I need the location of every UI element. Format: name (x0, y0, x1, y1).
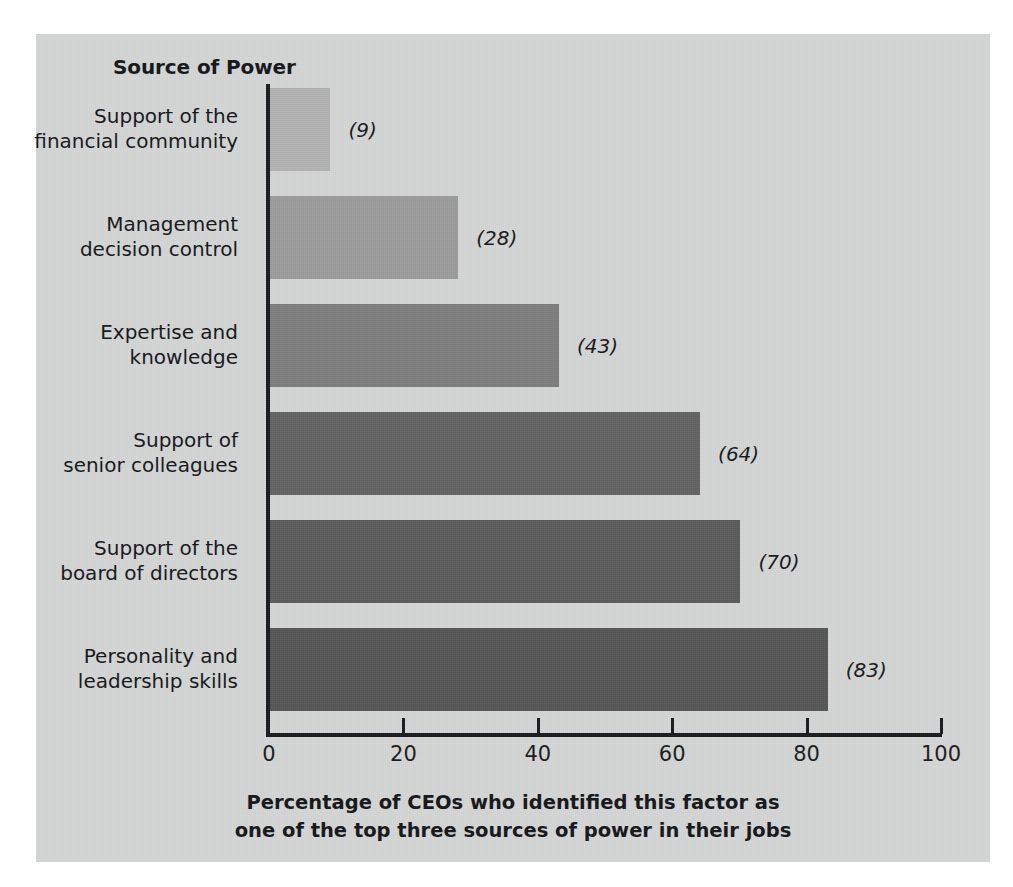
category-label-line-2: knowledge (18, 346, 238, 372)
bar-value-label: (28) (476, 226, 517, 250)
bar-value-label: (43) (577, 334, 618, 358)
chart-column-header: Source of Power (113, 55, 313, 79)
bar-row: Support of thefinancial community(9) (36, 88, 990, 171)
category-label-line-1: Management (18, 212, 238, 238)
x-axis-tick (537, 718, 540, 734)
bar[interactable] (270, 196, 458, 279)
x-axis-title-line-2: one of the top three sources of power in… (36, 817, 990, 845)
x-axis-tick (806, 718, 809, 734)
bar-row: Personality andleadership skills(83) (36, 628, 990, 711)
category-label-line-1: Personality and (18, 644, 238, 670)
figure-panel: Source of Power Support of thefinancial … (36, 34, 990, 862)
bar[interactable] (270, 88, 330, 171)
bar[interactable] (270, 412, 700, 495)
x-axis-title-line-1: Percentage of CEOs who identified this f… (36, 789, 990, 817)
category-label-line-2: leadership skills (18, 670, 238, 696)
category-label-line-1: Support of the (18, 104, 238, 130)
category-label-line-1: Support of (18, 428, 238, 454)
x-axis-tick-label: 80 (793, 742, 820, 766)
category-label: Expertise andknowledge (18, 320, 238, 371)
x-axis-tick (402, 718, 405, 734)
category-label-line-1: Support of the (18, 536, 238, 562)
x-axis-tick (671, 718, 674, 734)
x-axis-tick-label: 100 (921, 742, 961, 766)
category-label: Personality andleadership skills (18, 644, 238, 695)
bar[interactable] (270, 304, 559, 387)
bar-value-label: (83) (846, 658, 887, 682)
category-label-line-2: board of directors (18, 562, 238, 588)
bar-value-label: (9) (348, 118, 376, 142)
bar-row: Expertise andknowledge(43) (36, 304, 990, 387)
x-axis-title: Percentage of CEOs who identified this f… (36, 789, 990, 846)
x-axis-tick-label: 20 (390, 742, 417, 766)
category-label-line-1: Expertise and (18, 320, 238, 346)
bar-chart: Source of Power Support of thefinancial … (36, 34, 990, 862)
category-label: Support ofsenior colleagues (18, 428, 238, 479)
x-axis-tick-label: 60 (659, 742, 686, 766)
category-label: Support of theboard of directors (18, 536, 238, 587)
bar-value-label: (70) (758, 550, 799, 574)
bar[interactable] (270, 628, 828, 711)
category-label-line-2: decision control (18, 238, 238, 264)
bar-row: Support ofsenior colleagues(64) (36, 412, 990, 495)
bar-row: Support of theboard of directors(70) (36, 520, 990, 603)
x-axis-tick (940, 718, 943, 734)
x-axis-tick-label: 40 (524, 742, 551, 766)
category-label-line-2: senior colleagues (18, 454, 238, 480)
x-axis-tick-label: 0 (262, 742, 275, 766)
bar[interactable] (270, 520, 740, 603)
bar-row: Managementdecision control(28) (36, 196, 990, 279)
x-axis-line (266, 733, 942, 737)
category-label: Support of thefinancial community (18, 104, 238, 155)
category-label-line-2: financial community (18, 130, 238, 156)
bar-value-label: (64) (718, 442, 759, 466)
category-label: Managementdecision control (18, 212, 238, 263)
